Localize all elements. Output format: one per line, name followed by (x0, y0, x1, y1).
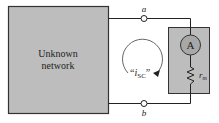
loop-current-arrow-icon (123, 39, 163, 73)
circuit-svg: Unknown network a b A rm “iSC” (0, 0, 219, 123)
terminal-a-label: a (142, 4, 147, 14)
terminal-a (141, 16, 147, 22)
loop-current-label: “iSC” (130, 67, 150, 80)
circuit-diagram: Unknown network a b A rm “iSC” (0, 0, 219, 123)
network-label-line2: network (42, 60, 75, 71)
terminal-b-label: b (142, 108, 147, 118)
ammeter-symbol: A (187, 39, 195, 51)
network-label-line1: Unknown (38, 48, 77, 59)
arrowhead-icon (153, 70, 160, 77)
terminal-b (141, 101, 147, 107)
